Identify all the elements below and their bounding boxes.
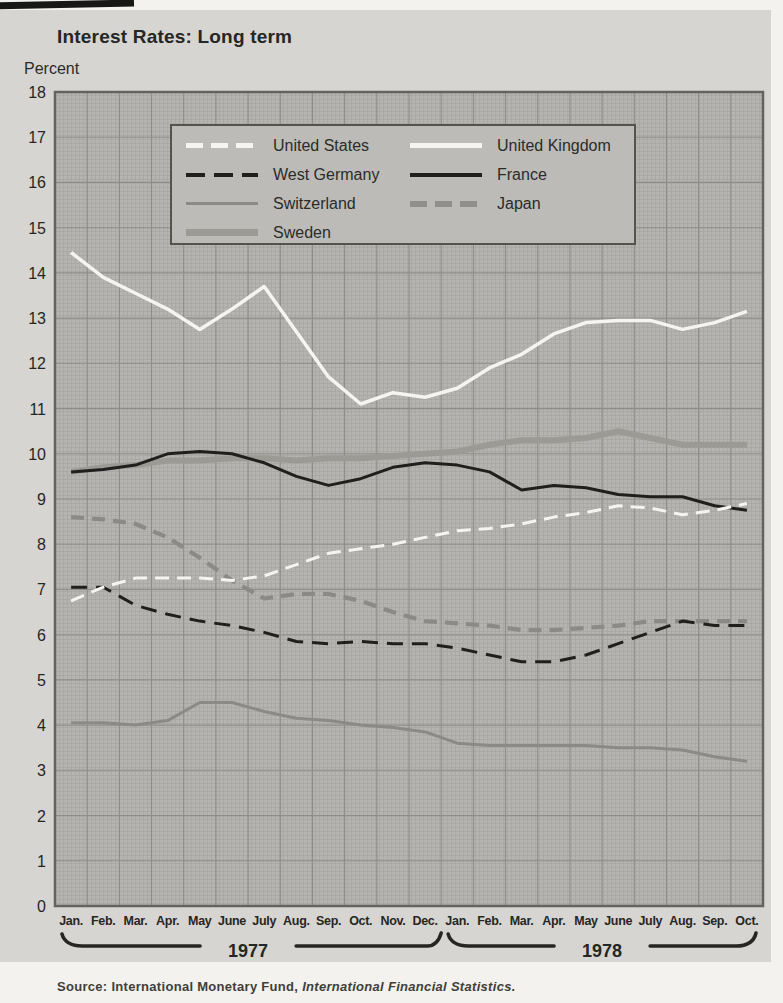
legend-label: United Kingdom — [497, 137, 611, 155]
x-month-label: Feb. — [477, 914, 502, 928]
legend-label: Switzerland — [273, 195, 356, 213]
legend-item-uk: United Kingdom — [410, 137, 634, 155]
x-month-label: Nov. — [380, 914, 405, 928]
x-month-label: Mar. — [124, 914, 148, 928]
x-month-label: Oct. — [349, 914, 372, 928]
x-month-label: July — [638, 914, 662, 928]
y-tick-label: 0 — [37, 898, 46, 915]
x-month-label: Apr. — [156, 914, 179, 928]
x-month-label: June — [218, 914, 246, 928]
y-tick-label: 1 — [37, 853, 46, 870]
source-text: Source: International Monetary Fund, — [57, 979, 302, 994]
x-month-label: Jan. — [445, 914, 469, 928]
legend-swatch-uk-line-icon — [410, 143, 482, 148]
legend-swatch-fr-line-icon — [410, 173, 482, 177]
y-tick-label: 12 — [28, 355, 46, 372]
y-tick-label: 9 — [37, 491, 46, 508]
page: { "page": { "title": "Interest Rates: Lo… — [0, 0, 783, 1003]
y-tick-label: 4 — [37, 717, 46, 734]
y-tick-label: 5 — [37, 672, 46, 689]
x-month-label: Apr. — [542, 914, 565, 928]
y-tick-label: 2 — [37, 808, 46, 825]
x-month-label: Mar. — [510, 914, 534, 928]
legend-label: Sweden — [273, 224, 331, 242]
x-month-label: Sep. — [316, 914, 341, 928]
legend-item-ch: Switzerland — [186, 195, 410, 213]
y-tick-label: 11 — [29, 401, 46, 418]
x-month-label: May — [188, 914, 212, 928]
y-tick-label: 15 — [28, 220, 46, 237]
x-month-label: Aug. — [283, 914, 310, 928]
source-note: Source: International Monetary Fund, Int… — [57, 979, 516, 994]
x-month-label: Oct. — [735, 914, 758, 928]
chart-legend: United StatesUnited KingdomWest GermanyF… — [170, 124, 636, 245]
x-month-label: Jan. — [59, 914, 83, 928]
legend-item-jp: Japan — [410, 195, 634, 213]
y-axis-unit-label: Percent — [24, 60, 79, 78]
y-tick-label: 16 — [28, 174, 46, 191]
legend-label: West Germany — [273, 166, 379, 184]
legend-item-us: United States — [186, 137, 410, 155]
y-tick-label: 6 — [37, 627, 46, 644]
legend-item-wg: West Germany — [186, 166, 410, 184]
y-tick-label: 13 — [28, 310, 46, 327]
x-month-label: Dec. — [412, 914, 437, 928]
x-month-label: Feb. — [91, 914, 116, 928]
legend-swatch-ch-line-icon — [186, 202, 258, 205]
y-tick-label: 17 — [28, 129, 46, 146]
legend-label: Japan — [497, 195, 541, 213]
y-tick-label: 14 — [28, 265, 46, 282]
page-title: Interest Rates: Long term — [57, 26, 292, 48]
x-month-label: Sep. — [702, 914, 727, 928]
source-publication: International Financial Statistics. — [302, 979, 516, 994]
x-month-label: Aug. — [669, 914, 696, 928]
x-month-label: May — [574, 914, 598, 928]
y-tick-label: 8 — [37, 536, 46, 553]
y-tick-label: 18 — [28, 84, 46, 101]
legend-swatch-se-line-icon — [186, 229, 258, 236]
y-tick-label: 3 — [37, 762, 46, 779]
legend-swatch-jp-line-icon — [410, 201, 482, 207]
legend-item-fr: France — [410, 166, 634, 184]
y-tick-label: 10 — [28, 446, 46, 463]
year-label: 1978 — [582, 941, 622, 961]
legend-item-se: Sweden — [186, 224, 410, 242]
legend-label: France — [497, 166, 547, 184]
y-tick-label: 7 — [37, 581, 46, 598]
x-month-label: July — [252, 914, 276, 928]
legend-swatch-wg-line-icon — [186, 173, 258, 177]
x-month-label: June — [604, 914, 632, 928]
legend-swatch-us-line-icon — [186, 143, 258, 148]
year-label: 1977 — [228, 941, 268, 961]
legend-label: United States — [273, 137, 369, 155]
